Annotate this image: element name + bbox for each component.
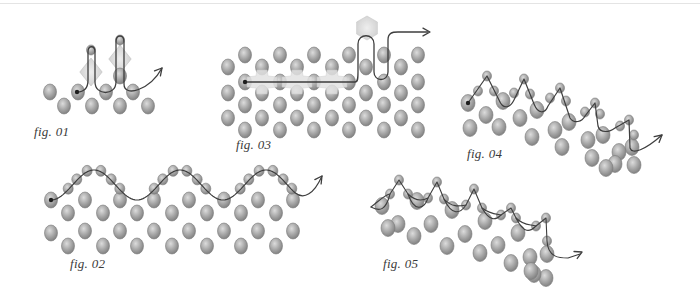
bead: [395, 59, 408, 75]
bead: [274, 97, 287, 113]
bead: [291, 110, 304, 126]
bead: [158, 174, 168, 185]
bead: [148, 223, 161, 239]
bead: [79, 223, 92, 239]
bead: [492, 119, 506, 136]
bead: [513, 110, 527, 127]
bead: [525, 129, 539, 146]
bead: [72, 174, 82, 185]
bead: [360, 59, 373, 75]
bead: [308, 97, 321, 113]
bead: [201, 238, 214, 254]
bead: [474, 86, 483, 96]
bead: [86, 98, 99, 114]
bead: [79, 192, 92, 208]
bead: [511, 225, 525, 242]
bead: [585, 150, 599, 167]
label-fig-01: fig. 01: [34, 124, 69, 140]
bead: [625, 139, 639, 156]
bead: [478, 213, 492, 230]
bead: [548, 122, 562, 139]
bead: [97, 238, 110, 254]
bead: [235, 205, 248, 221]
start-dot: [243, 80, 247, 84]
bead: [616, 121, 625, 131]
figure-01: [44, 35, 163, 114]
bead: [581, 132, 595, 149]
bead: [287, 223, 300, 239]
bead: [627, 157, 641, 174]
bead: [256, 110, 269, 126]
bead: [131, 205, 144, 221]
bead: [599, 160, 613, 177]
bead: [278, 174, 288, 185]
bead: [479, 107, 493, 124]
label-fig-02: fig. 02: [70, 256, 105, 272]
bead: [274, 47, 287, 63]
bead: [127, 84, 140, 100]
bead: [378, 97, 391, 113]
bead: [412, 47, 425, 63]
bead: [395, 85, 408, 101]
bead: [142, 98, 155, 114]
bead: [131, 238, 144, 254]
bead: [378, 74, 391, 90]
bead: [326, 110, 339, 126]
bead: [222, 59, 235, 75]
bead: [343, 97, 356, 113]
bead: [412, 122, 425, 138]
bead: [201, 205, 214, 221]
bead: [218, 223, 231, 239]
bead: [504, 255, 518, 272]
bead: [440, 238, 454, 255]
figure-02: [45, 165, 323, 254]
label-fig-05: fig. 05: [383, 256, 418, 272]
bead: [166, 205, 179, 221]
bead: [166, 238, 179, 254]
bead: [407, 228, 421, 245]
label-fig-03: fig. 03: [236, 137, 271, 153]
bead: [375, 198, 389, 215]
bead: [381, 220, 395, 237]
bead: [491, 237, 505, 254]
bead: [596, 127, 610, 144]
bead: [235, 238, 248, 254]
bead: [458, 226, 472, 243]
bead: [239, 122, 252, 138]
bead: [270, 205, 283, 221]
crystal-bead: [80, 58, 102, 86]
bead: [222, 110, 235, 126]
bead: [114, 223, 127, 239]
bead: [62, 238, 75, 254]
bead: [244, 174, 254, 185]
bead: [106, 174, 116, 185]
label-fig-04: fig. 04: [467, 146, 502, 162]
start-dot: [466, 101, 470, 105]
bead: [308, 47, 321, 63]
bead: [58, 98, 71, 114]
bead: [44, 84, 57, 100]
bead: [555, 139, 569, 156]
bead: [270, 238, 283, 254]
bead: [343, 47, 356, 63]
bead: [114, 98, 127, 114]
bead: [62, 205, 75, 221]
bead: [524, 263, 538, 280]
beadwork-diagram: [0, 0, 700, 296]
bead: [183, 192, 196, 208]
bead: [630, 130, 639, 140]
bead: [192, 174, 202, 185]
bead: [424, 216, 438, 233]
bead: [360, 85, 373, 101]
bead: [97, 205, 110, 221]
bead: [463, 120, 477, 137]
start-dot: [49, 198, 53, 202]
bead: [274, 122, 287, 138]
bead: [308, 122, 321, 138]
bead: [252, 223, 265, 239]
bead: [45, 225, 58, 241]
bead: [395, 110, 408, 126]
bead: [412, 97, 425, 113]
bead: [239, 47, 252, 63]
bead: [360, 110, 373, 126]
